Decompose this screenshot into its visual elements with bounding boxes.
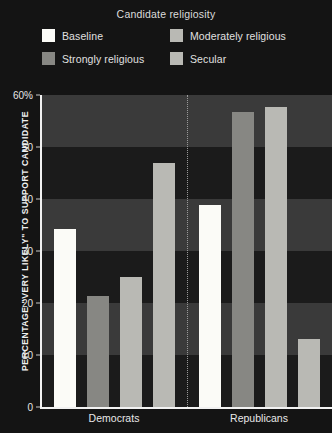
legend-entries: Baseline Moderately religious Strongly r… — [0, 29, 332, 65]
bar — [87, 296, 109, 407]
x-axis-tick-labels: DemocratsRepublicans — [40, 410, 332, 430]
y-axis-tick-label: 60% — [13, 90, 33, 101]
bar — [153, 163, 175, 407]
legend-swatch-strongly-religious — [42, 52, 55, 65]
y-axis-tick-label: 0 — [27, 402, 33, 413]
bar — [120, 277, 142, 407]
bar — [232, 112, 254, 407]
plot-area — [42, 95, 332, 407]
x-axis-tick-label: Democrats — [89, 412, 140, 424]
legend-item-baseline: Baseline — [42, 29, 170, 42]
legend-title: Candidate religiosity — [0, 8, 332, 20]
chart-legend: Candidate religiosity Baseline Moderatel… — [0, 0, 332, 65]
y-axis-tick-labels: 0102030405060% — [0, 88, 40, 408]
legend-item-strongly-religious: Strongly religious — [42, 52, 170, 65]
x-axis-line — [40, 407, 332, 409]
legend-swatch-moderately-religious — [170, 29, 183, 42]
legend-label-baseline: Baseline — [62, 30, 103, 42]
legend-item-secular: Secular — [170, 52, 332, 65]
bar — [54, 229, 76, 407]
legend-swatch-secular — [170, 52, 183, 65]
group-divider — [187, 95, 188, 407]
y-axis-tick-label: 50 — [22, 142, 33, 153]
legend-label-strongly-religious: Strongly religious — [62, 53, 144, 65]
bar — [199, 205, 221, 407]
bar — [265, 107, 287, 407]
y-axis-tick-label: 40 — [22, 194, 33, 205]
bar — [298, 339, 320, 407]
y-axis-tick-label: 10 — [22, 350, 33, 361]
legend-label-secular: Secular — [190, 53, 226, 65]
legend-item-moderately-religious: Moderately religious — [170, 29, 332, 42]
legend-swatch-baseline — [42, 29, 55, 42]
bar-chart: PERCENTAGE "VERY LIKELY" TO SUPPORT CAND… — [0, 88, 332, 433]
y-axis-tick-label: 20 — [22, 298, 33, 309]
x-axis-tick-label: Republicans — [230, 412, 288, 424]
y-axis-tick-label: 30 — [22, 246, 33, 257]
legend-label-moderately-religious: Moderately religious — [190, 30, 286, 42]
